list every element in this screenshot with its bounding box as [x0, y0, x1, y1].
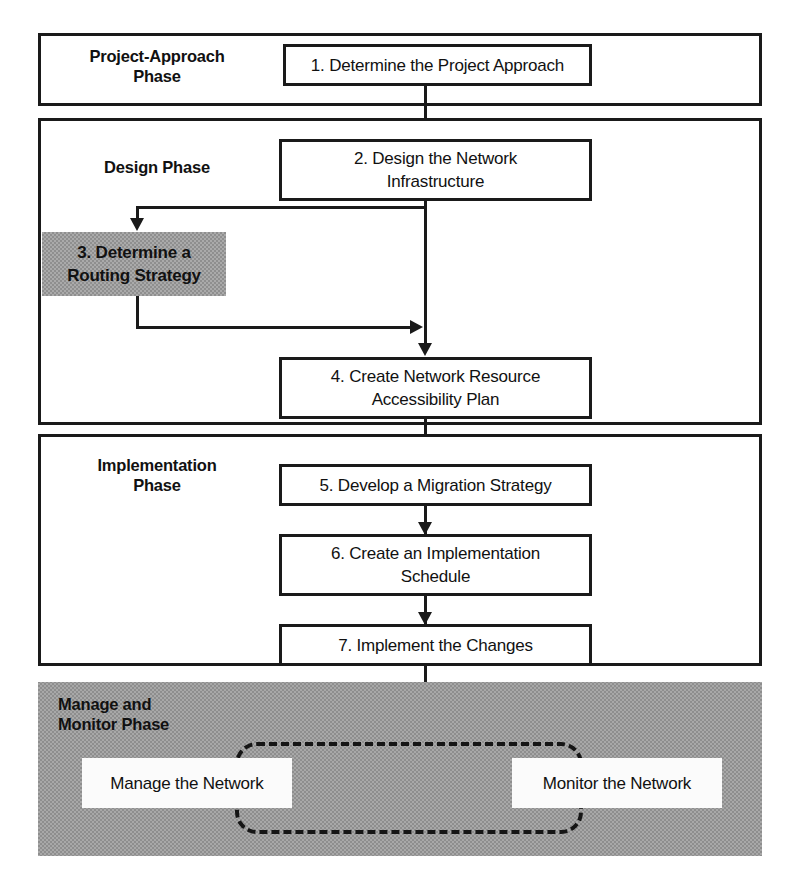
- phase-label-design-line1: Design Phase: [52, 157, 262, 177]
- flowchart-canvas: Project-Approach Phase 1. Determine the …: [0, 0, 797, 894]
- step-box-2-label: 2. Design the Network Infrastructure: [354, 147, 517, 193]
- step-box-6[interactable]: 6. Create an Implementation Schedule: [279, 534, 592, 596]
- connector-step2-to-step3-horizontal: [136, 206, 427, 209]
- step-box-4-line1: 4. Create Network Resource: [331, 367, 540, 386]
- step-box-1-label: 1. Determine the Project Approach: [311, 54, 564, 77]
- arrowhead-trunk-to-step4: [418, 343, 432, 356]
- arrowhead-step3-return: [410, 320, 423, 334]
- step-box-6-line2: Schedule: [401, 567, 470, 586]
- step-box-2[interactable]: 2. Design the Network Infrastructure: [279, 139, 592, 201]
- phase-label-project-approach-line2: Phase: [52, 66, 262, 86]
- ongoing-task-monitor-network[interactable]: Monitor the Network: [512, 758, 722, 808]
- ongoing-task-manage-network[interactable]: Manage the Network: [82, 758, 292, 808]
- connector-step3-return-vertical: [136, 296, 139, 329]
- phase-label-implementation-line1: Implementation: [52, 455, 262, 475]
- step-box-4-label: 4. Create Network Resource Accessibility…: [331, 365, 540, 411]
- connector-step2-trunk: [424, 201, 427, 321]
- connector-step3-return-horizontal: [136, 326, 414, 329]
- step-box-1[interactable]: 1. Determine the Project Approach: [283, 44, 592, 86]
- phase-label-project-approach: Project-Approach Phase: [52, 46, 262, 86]
- step-box-6-label: 6. Create an Implementation Schedule: [331, 542, 540, 588]
- step-box-7[interactable]: 7. Implement the Changes: [279, 624, 592, 666]
- phase-label-implementation: Implementation Phase: [52, 455, 262, 495]
- phase-label-implementation-line2: Phase: [52, 475, 262, 495]
- step-box-5[interactable]: 5. Develop a Migration Strategy: [279, 464, 592, 506]
- step-box-2-line2: Infrastructure: [387, 172, 484, 191]
- phase-label-design: Design Phase: [52, 157, 262, 177]
- step-box-3-label: 3. Determine a Routing Strategy: [67, 241, 201, 287]
- phase-label-project-approach-line1: Project-Approach: [52, 46, 262, 66]
- step-box-5-label: 5. Develop a Migration Strategy: [320, 474, 552, 497]
- step-box-2-line1: 2. Design the Network: [354, 149, 517, 168]
- phase-label-manage-monitor: Manage and Monitor Phase: [58, 694, 298, 734]
- step-box-3-line2: Routing Strategy: [67, 266, 201, 285]
- step-box-6-line1: 6. Create an Implementation: [331, 544, 540, 563]
- step-box-3[interactable]: 3. Determine a Routing Strategy: [42, 232, 226, 296]
- ongoing-task-manage-network-label: Manage the Network: [110, 772, 263, 795]
- phase-label-manage-monitor-line2: Monitor Phase: [58, 714, 298, 734]
- step-box-7-label: 7. Implement the Changes: [338, 634, 533, 657]
- step-box-4-line2: Accessibility Plan: [372, 390, 500, 409]
- step-box-4[interactable]: 4. Create Network Resource Accessibility…: [279, 357, 592, 419]
- arrowhead-step2-to-step3: [130, 218, 144, 231]
- phase-label-manage-monitor-line1: Manage and: [58, 694, 298, 714]
- ongoing-task-monitor-network-label: Monitor the Network: [543, 772, 691, 795]
- step-box-3-line1: 3. Determine a: [77, 243, 190, 262]
